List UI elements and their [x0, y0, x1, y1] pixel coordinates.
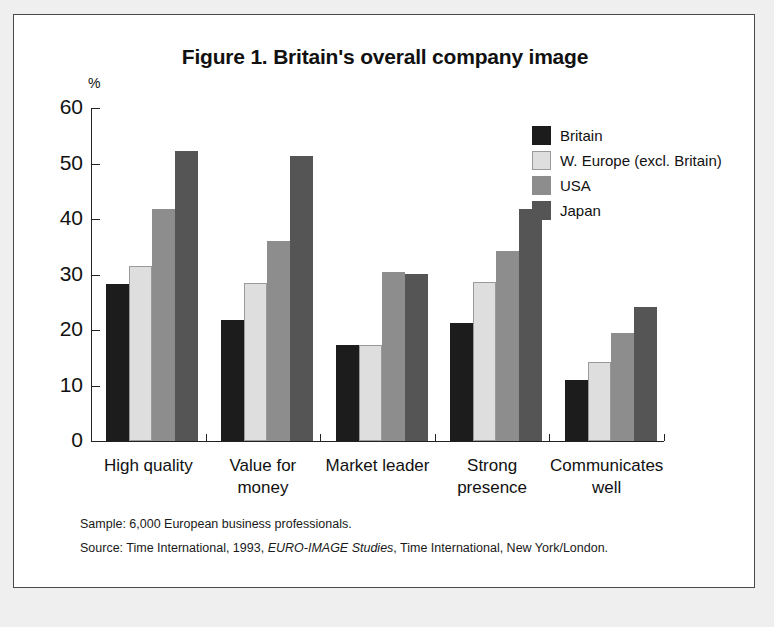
- bar-japan-strong-presence: [519, 209, 542, 441]
- category-label-line2: well: [537, 477, 676, 499]
- category-label-line1: Communicates: [537, 455, 676, 477]
- bar-w-europe-excl-britain-market-leader: [359, 345, 382, 441]
- legend-item-w-europe-excl-britain: W. Europe (excl. Britain): [532, 148, 752, 173]
- y-axis-tick-label: 30: [37, 262, 83, 286]
- bar-chart-plot: % 6050403020100High qualityValue formone…: [14, 15, 756, 589]
- x-axis-separator-tick: [664, 434, 665, 441]
- bar-japan-market-leader: [405, 274, 428, 441]
- y-axis-tick-mark: [91, 108, 100, 109]
- legend-item-label: Japan: [560, 202, 601, 219]
- y-axis-unit-label: %: [88, 75, 100, 91]
- bar-w-europe-excl-britain-high-quality: [129, 266, 152, 441]
- bar-britain-value-for-money: [221, 320, 244, 441]
- bar-britain-communicates-well: [565, 380, 588, 441]
- legend-item-label: Britain: [560, 127, 603, 144]
- bar-usa-high-quality: [152, 209, 175, 441]
- legend-swatch-icon: [532, 151, 551, 170]
- y-axis-tick-label: 20: [37, 317, 83, 341]
- bar-britain-market-leader: [336, 345, 359, 441]
- y-axis-tick-label: 60: [37, 95, 83, 119]
- y-axis-tick-mark: [91, 275, 100, 276]
- chart-legend: BritainW. Europe (excl. Britain)USAJapan: [532, 123, 752, 223]
- bar-w-europe-excl-britain-strong-presence: [473, 282, 496, 441]
- bar-japan-value-for-money: [290, 156, 313, 441]
- legend-item-britain: Britain: [532, 123, 752, 148]
- x-axis-separator-tick: [206, 434, 207, 441]
- footnote-source-title: EURO-IMAGE Studies: [268, 541, 394, 555]
- bar-usa-strong-presence: [496, 251, 519, 441]
- bar-usa-communicates-well: [611, 333, 634, 441]
- figure-frame: Figure 1. Britain's overall company imag…: [13, 14, 755, 588]
- footnote-source: Source: Time International, 1993, EURO-I…: [80, 541, 608, 555]
- footnote-source-suffix: , Time International, New York/London.: [393, 541, 608, 555]
- legend-swatch-icon: [532, 126, 551, 145]
- footnote-source-prefix: Source: Time International, 1993,: [80, 541, 268, 555]
- legend-item-usa: USA: [532, 173, 752, 198]
- x-axis-line: [91, 441, 664, 442]
- y-axis-tick-mark: [91, 164, 100, 165]
- bar-usa-value-for-money: [267, 241, 290, 441]
- legend-item-label: W. Europe (excl. Britain): [560, 152, 722, 169]
- y-axis-tick-label: 10: [37, 373, 83, 397]
- y-axis-tick-mark: [91, 330, 100, 331]
- bar-usa-market-leader: [382, 272, 405, 441]
- legend-swatch-icon: [532, 176, 551, 195]
- y-axis-tick-mark: [91, 386, 100, 387]
- x-axis-separator-tick: [435, 434, 436, 441]
- category-label-line2: money: [194, 477, 333, 499]
- bar-japan-high-quality: [175, 151, 198, 441]
- y-axis-tick-label: 0: [37, 428, 83, 452]
- bar-japan-communicates-well: [634, 307, 657, 441]
- x-axis-separator-tick: [549, 434, 550, 441]
- footnote-sample: Sample: 6,000 European business professi…: [80, 517, 352, 531]
- x-axis-category-label: Communicateswell: [537, 455, 676, 499]
- x-axis-separator-tick: [320, 434, 321, 441]
- bar-w-europe-excl-britain-communicates-well: [588, 362, 611, 441]
- y-axis-tick-label: 50: [37, 151, 83, 175]
- y-axis-tick-mark: [91, 219, 100, 220]
- legend-swatch-icon: [532, 201, 551, 220]
- bar-w-europe-excl-britain-value-for-money: [244, 283, 267, 441]
- bar-britain-strong-presence: [450, 323, 473, 441]
- legend-item-japan: Japan: [532, 198, 752, 223]
- legend-item-label: USA: [560, 177, 591, 194]
- y-axis-tick-label: 40: [37, 206, 83, 230]
- bar-britain-high-quality: [106, 284, 129, 441]
